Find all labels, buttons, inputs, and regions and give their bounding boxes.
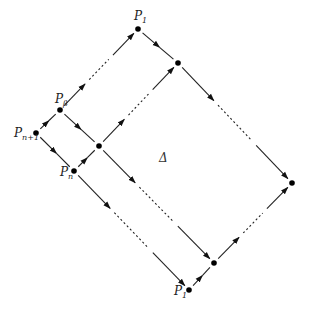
lattice-diagram: Pn+1 Pβ Pn P1 P1 Δ	[0, 0, 309, 312]
node-P_beta	[57, 107, 63, 113]
edge-T-to-S	[218, 187, 288, 258]
edge-P_n-to-Q	[78, 150, 95, 167]
node-Q	[96, 143, 102, 149]
edge-P_1_top-to-R	[143, 33, 174, 59]
node-P_1_top	[135, 26, 141, 32]
region-delta-label: Δ	[158, 151, 168, 165]
edge-Q-to-R	[103, 67, 174, 141]
edge-P_n1-to-P_beta	[40, 114, 55, 129]
edge-P_beta-to-P_1_top	[64, 33, 134, 105]
node-S	[289, 180, 295, 186]
edge-P_1_bottom-to-T	[193, 267, 210, 285]
label-p-beta: Pβ	[54, 92, 68, 108]
label-p-1-top: P1	[133, 9, 147, 25]
edge-P_n-to-P_1_bottom	[78, 175, 185, 285]
label-p-n-plus-1: Pn+1	[13, 126, 39, 142]
label-p-1-bottom: P1	[173, 284, 187, 300]
label-p-n: Pn	[59, 165, 73, 181]
edge-Q-to-T	[103, 150, 210, 258]
node-R	[175, 60, 181, 66]
edge-P_beta-to-Q	[64, 114, 94, 142]
edge-P_n1-to-P_n	[40, 137, 70, 167]
node-T	[211, 260, 217, 266]
edge-R-to-S	[182, 67, 288, 178]
